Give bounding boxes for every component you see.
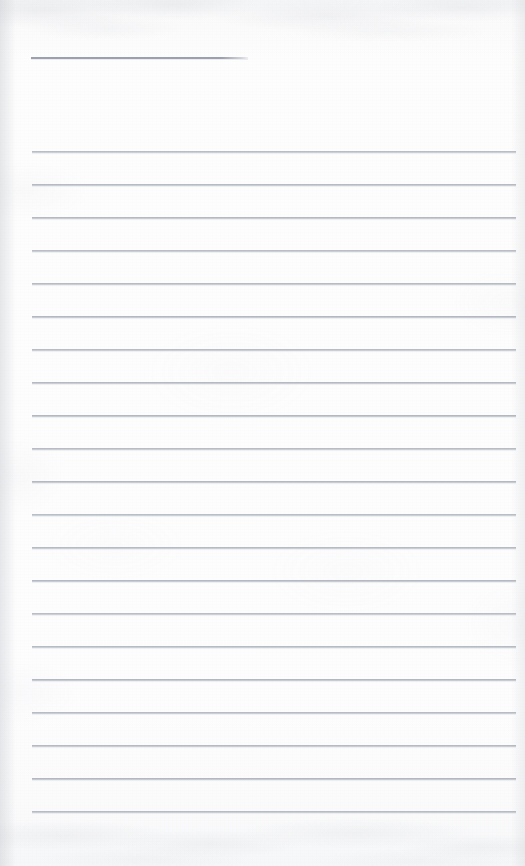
- ruled-line: [32, 415, 516, 417]
- ruled-line: [32, 745, 516, 747]
- note-page: [0, 0, 525, 866]
- ruled-line: [32, 811, 516, 813]
- ruled-line: [32, 316, 516, 318]
- ruled-line: [32, 382, 516, 384]
- title-underline-rule: [31, 57, 248, 59]
- ruled-line: [32, 481, 516, 483]
- ruled-line: [32, 349, 516, 351]
- page-edge-shadow-right: [511, 0, 525, 866]
- ruled-line: [32, 283, 516, 285]
- ruled-line: [32, 580, 516, 582]
- ruled-line: [32, 217, 516, 219]
- paper-grain-overlay: [0, 0, 525, 866]
- ruled-line: [32, 250, 516, 252]
- ruled-line: [32, 613, 516, 615]
- ruled-line: [32, 514, 516, 516]
- ruled-line: [32, 679, 516, 681]
- page-edge-shadow-left: [0, 0, 16, 866]
- ruled-line: [32, 646, 516, 648]
- ruled-line: [32, 151, 516, 153]
- ruled-line: [32, 778, 516, 780]
- ruled-line: [32, 712, 516, 714]
- ruled-line: [32, 448, 516, 450]
- ruled-line: [32, 547, 516, 549]
- ruled-line: [32, 184, 516, 186]
